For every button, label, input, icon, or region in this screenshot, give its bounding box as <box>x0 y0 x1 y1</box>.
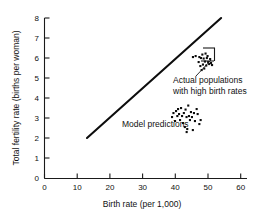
data-point <box>186 116 188 118</box>
y-axis-tick-labels: 8 7 6 5 4 3 2 1 0 <box>35 14 40 183</box>
x-axis-title: Birth rate (per 1,000) <box>103 199 182 209</box>
data-point <box>188 115 190 117</box>
axes-group <box>45 18 248 179</box>
data-point <box>202 64 204 66</box>
data-point <box>210 62 212 64</box>
y-tick-label-6: 6 <box>35 54 40 63</box>
data-point <box>196 108 198 110</box>
y-tick-label-5: 5 <box>35 74 40 83</box>
y-tick-label-8: 8 <box>35 14 40 23</box>
data-point <box>199 65 201 67</box>
y-tick-label-3: 3 <box>35 114 40 123</box>
data-point <box>171 116 173 118</box>
x-tick-label-10: 10 <box>73 183 82 192</box>
x-axis-tick-labels: 0 10 20 30 40 50 60 <box>42 183 245 192</box>
data-point <box>176 115 178 117</box>
data-point <box>203 58 205 60</box>
data-point <box>209 58 211 60</box>
data-point <box>177 108 179 110</box>
data-point <box>187 105 189 107</box>
y-axis-title: Total fertility rate (births per woman) <box>11 30 21 165</box>
data-point <box>181 115 183 117</box>
x-tick-label-60: 60 <box>236 183 245 192</box>
y-tick-label-2: 2 <box>35 134 40 143</box>
y-tick-label-7: 7 <box>35 34 40 43</box>
actual-populations-label-line1: Actual populations <box>173 75 242 85</box>
data-point <box>198 61 200 63</box>
data-point <box>206 57 208 59</box>
y-tick-label-0: 0 <box>35 174 40 183</box>
data-point <box>189 119 191 121</box>
data-point <box>190 111 192 113</box>
chart-figure: 8 7 6 5 4 3 2 1 0 0 10 20 30 40 50 <box>0 0 266 220</box>
data-point <box>175 110 177 112</box>
data-point <box>192 129 194 131</box>
data-point <box>192 56 194 58</box>
data-point <box>178 113 180 115</box>
x-tick-label-20: 20 <box>105 183 114 192</box>
x-tick-label-40: 40 <box>171 183 180 192</box>
data-point <box>211 64 213 66</box>
data-point <box>200 57 202 59</box>
data-point <box>180 107 182 109</box>
y-tick-label-4: 4 <box>35 94 40 103</box>
model-predictions-label: Model predictions <box>122 119 189 129</box>
x-axis-ticks <box>45 174 241 179</box>
scatter-chart: 8 7 6 5 4 3 2 1 0 0 10 20 30 40 50 <box>0 0 266 220</box>
data-point <box>183 112 185 114</box>
actual-populations-label-line2: with high birth rates <box>172 86 247 96</box>
x-tick-label-0: 0 <box>42 183 47 192</box>
data-point <box>197 113 199 115</box>
y-axis-ticks <box>45 18 50 158</box>
data-point <box>207 55 209 57</box>
data-point <box>191 116 193 118</box>
data-point <box>172 112 174 114</box>
x-tick-label-50: 50 <box>204 183 213 192</box>
data-point <box>193 112 195 114</box>
data-point <box>200 119 202 121</box>
x-tick-label-30: 30 <box>138 183 147 192</box>
data-point <box>195 55 197 57</box>
data-point <box>205 53 207 55</box>
data-point <box>198 123 200 125</box>
data-point <box>186 131 188 133</box>
y-tick-label-1: 1 <box>35 154 40 163</box>
data-point <box>194 120 196 122</box>
data-point <box>185 109 187 111</box>
data-point <box>201 54 203 56</box>
